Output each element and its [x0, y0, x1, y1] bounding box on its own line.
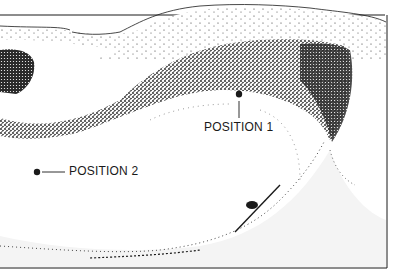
position-2-marker	[34, 169, 40, 175]
bunker-illustration	[0, 0, 399, 280]
position-1-label: POSITION 1	[204, 120, 273, 134]
ball-on-slope	[246, 201, 258, 209]
position-1-marker	[236, 90, 242, 97]
position-2-label: POSITION 2	[69, 164, 138, 178]
